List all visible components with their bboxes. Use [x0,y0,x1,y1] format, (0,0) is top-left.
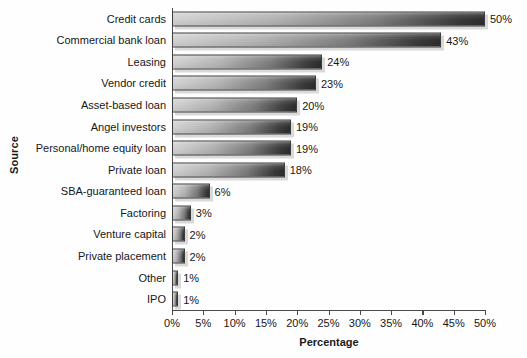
bar: 6% [172,184,210,199]
bar-fill [172,119,291,134]
bar-row: Asset-based loan20% [172,94,485,116]
x-axis-tick-label: 25% [317,317,339,329]
category-label: Vendor credit [101,77,166,89]
category-label: Angel investors [91,121,166,133]
bar-fill [172,98,297,113]
bar: 1% [172,270,178,285]
bar-value-label: 18% [290,164,312,176]
x-axis-tick [422,310,423,315]
bar-row: Factoring3% [172,202,485,224]
category-label: Leasing [127,56,166,68]
bar-value-label: 43% [446,34,468,46]
bar-fill [172,54,322,69]
bar: 24% [172,54,322,69]
category-label: IPO [147,293,166,305]
bar-row: Credit cards50% [172,8,485,30]
category-label: Personal/home equity loan [36,142,166,154]
x-axis-tick-label: 15% [255,317,277,329]
category-label: Commercial bank loan [57,34,166,46]
x-axis-tick-label: 45% [443,317,465,329]
bar: 3% [172,205,191,220]
bar-value-label: 1% [183,272,199,284]
bar: 18% [172,162,285,177]
bar: 23% [172,76,316,91]
category-label: Other [138,272,166,284]
bar-value-label: 6% [215,185,231,197]
bar-fill [172,270,178,285]
bar: 2% [172,227,185,242]
bar-fill [172,292,178,307]
x-axis-tick [297,310,298,315]
bar-fill [172,33,441,48]
x-axis-tick-label: 35% [380,317,402,329]
x-axis-tick [172,310,173,315]
bar-row: Commercial bank loan43% [172,30,485,52]
x-axis-tick [266,310,267,315]
x-axis-tick-label: 30% [349,317,371,329]
bar-value-label: 19% [296,142,318,154]
bar-row: Venture capital2% [172,224,485,246]
x-axis-tick [235,310,236,315]
bar-chart: Source Credit cards50%Commercial bank lo… [0,0,527,358]
y-axis-title: Source [2,0,26,310]
x-axis-tick [485,310,486,315]
bar: 1% [172,292,178,307]
category-label: SBA-guaranteed loan [61,185,166,197]
x-axis-tick-label: 0% [164,317,180,329]
bar-value-label: 1% [183,293,199,305]
bar-value-label: 20% [302,99,324,111]
bar-row: IPO1% [172,288,485,310]
x-axis-tick [360,310,361,315]
bar: 19% [172,141,291,156]
x-axis-tick-label: 40% [411,317,433,329]
bar-value-label: 23% [321,77,343,89]
bar-value-label: 3% [196,207,212,219]
bar: 19% [172,119,291,134]
bar-value-label: 2% [190,228,206,240]
bar-row: SBA-guaranteed loan6% [172,181,485,203]
bar-value-label: 2% [190,250,206,262]
bar-value-label: 50% [490,13,512,25]
bar-fill [172,249,185,264]
bar-fill [172,11,485,26]
bar: 43% [172,33,441,48]
bar-value-label: 24% [327,56,349,68]
x-axis-tick [454,310,455,315]
bar-value-label: 19% [296,121,318,133]
bar-fill [172,227,185,242]
bar-row: Vendor credit23% [172,73,485,95]
x-axis-title: Percentage [172,336,486,348]
bar-row: Leasing24% [172,51,485,73]
x-axis-tick-label: 10% [224,317,246,329]
category-label: Venture capital [93,228,166,240]
bar-row: Angel investors19% [172,116,485,138]
x-axis-tick-label: 5% [195,317,211,329]
x-axis-tick-label: 20% [286,317,308,329]
bar: 50% [172,11,485,26]
category-label: Asset-based loan [81,99,166,111]
bar-fill [172,141,291,156]
bar-fill [172,162,285,177]
category-label: Private loan [108,164,166,176]
bar-fill [172,76,316,91]
bar-row: Personal/home equity loan19% [172,137,485,159]
bar-row: Other1% [172,267,485,289]
bar: 20% [172,98,297,113]
bar: 2% [172,249,185,264]
category-label: Private placement [78,250,166,262]
bar-row: Private loan18% [172,159,485,181]
bar-row: Private placement2% [172,245,485,267]
x-axis-tick-label: 50% [474,317,496,329]
bar-fill [172,184,210,199]
category-label: Credit cards [107,13,166,25]
x-axis-tick [203,310,204,315]
bar-fill [172,205,191,220]
x-axis-tick [329,310,330,315]
y-axis-title-text: Source [8,136,20,174]
x-axis-tick [391,310,392,315]
plot-area: Credit cards50%Commercial bank loan43%Le… [172,8,485,310]
category-label: Factoring [120,207,166,219]
